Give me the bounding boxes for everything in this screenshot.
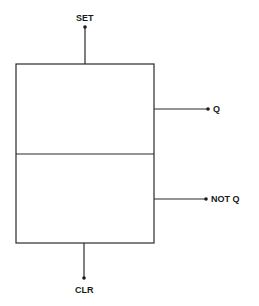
flip-flop-diagram: [0, 0, 259, 306]
clr-terminal-dot: [82, 276, 86, 280]
not-q-label: NOT Q: [211, 195, 240, 204]
clr-label: CLR: [75, 286, 94, 295]
set-label: SET: [76, 14, 94, 23]
q-terminal-dot: [206, 107, 210, 111]
set-terminal-dot: [83, 25, 87, 29]
q-label: Q: [213, 105, 220, 114]
not-q-terminal-dot: [204, 197, 208, 201]
